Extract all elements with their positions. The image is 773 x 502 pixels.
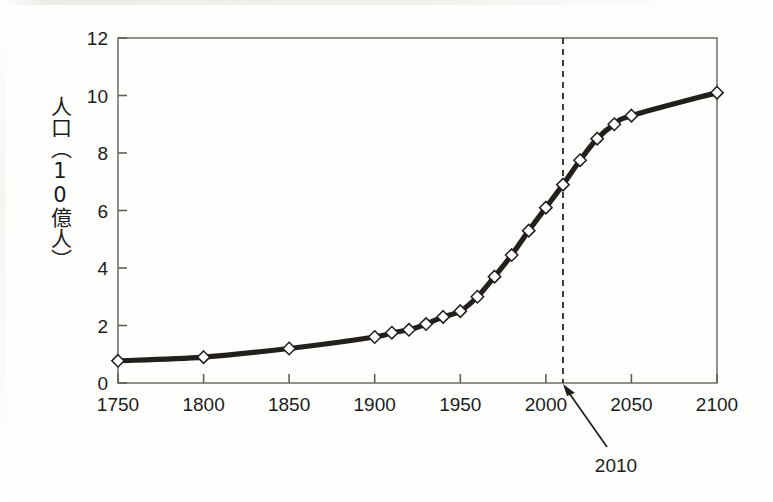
y-tick-label-2: 2 xyxy=(97,316,108,337)
arrow-shaft-icon xyxy=(567,390,607,447)
x-axis-ticks xyxy=(118,374,717,383)
data-point-marker xyxy=(386,326,398,338)
data-point-marker xyxy=(625,109,637,121)
x-tick-label-1850: 1850 xyxy=(268,394,310,415)
data-point-marker xyxy=(403,324,415,336)
population-curve-path xyxy=(118,93,717,361)
chart-page: 人口（10億人） 0 2 4 6 8 10 12 xyxy=(0,0,773,502)
data-point-marker xyxy=(283,342,295,354)
population-curve xyxy=(118,93,717,361)
y-tick-label-8: 8 xyxy=(97,143,108,164)
x-tick-label-2050: 2050 xyxy=(610,394,652,415)
data-point-marker xyxy=(112,355,124,367)
x-tick-label-2000: 2000 xyxy=(525,394,567,415)
data-point-marker xyxy=(197,351,209,363)
x-axis-tick-labels: 1750 1800 1850 1900 1950 2000 2050 2100 xyxy=(97,394,738,415)
x-tick-label-1750: 1750 xyxy=(97,394,139,415)
x-tick-label-1800: 1800 xyxy=(182,394,224,415)
y-tick-label-12: 12 xyxy=(87,28,108,49)
plot-border xyxy=(118,38,717,383)
x-tick-label-1950: 1950 xyxy=(439,394,481,415)
y-tick-label-10: 10 xyxy=(87,86,108,107)
y-axis-tick-labels: 0 2 4 6 8 10 12 xyxy=(87,28,109,394)
y-tick-label-4: 4 xyxy=(97,258,108,279)
y-tick-label-6: 6 xyxy=(97,201,108,222)
x-tick-label-2100: 2100 xyxy=(696,394,738,415)
annotation-label-2010: 2010 xyxy=(595,455,637,476)
x-tick-label-1900: 1900 xyxy=(354,394,396,415)
population-line-chart: 0 2 4 6 8 10 12 1750 1800 1850 1900 1950 xyxy=(0,0,773,502)
annotation-arrow-2010 xyxy=(563,384,607,447)
y-tick-label-0: 0 xyxy=(97,373,108,394)
data-point-marker xyxy=(369,331,381,343)
plot-frame xyxy=(118,38,717,383)
data-point-marker xyxy=(711,86,723,98)
y-axis-ticks xyxy=(118,38,127,383)
